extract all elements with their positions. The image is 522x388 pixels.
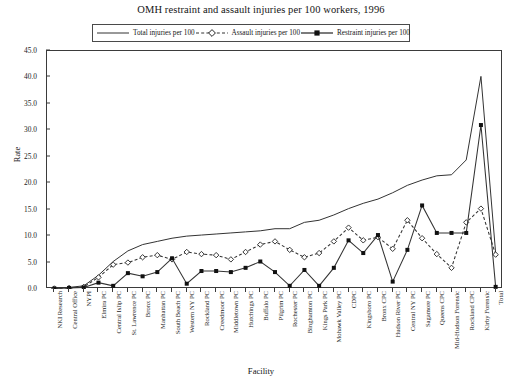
x-tick-mark [156, 288, 157, 292]
x-tick-label: Mid-Hudson Forensic [453, 291, 460, 349]
x-tick-mark [392, 288, 393, 292]
x-tick-label: Pilgrim PC [277, 291, 284, 321]
x-tick-mark [362, 288, 363, 292]
data-point-marker [332, 266, 336, 270]
x-tick-label: CDPC [350, 291, 357, 308]
x-tick-mark [289, 288, 290, 292]
x-tick-mark [127, 288, 128, 292]
data-point-marker [258, 242, 263, 247]
x-tick-mark [215, 288, 216, 292]
y-tick-label: 45.0 [24, 46, 37, 55]
x-tick-label: Kings Park PC [321, 291, 328, 330]
y-tick-mark [46, 102, 50, 103]
y-tick-label: 40.0 [24, 72, 37, 81]
x-tick-mark [245, 288, 246, 292]
x-tick-label: Queens CPC [438, 291, 445, 325]
x-tick-mark [200, 288, 201, 292]
x-tick-label: Hudson River PC [394, 291, 401, 338]
legend-item-assault: Assault injuries per 100 [195, 28, 300, 38]
y-tick-mark [46, 235, 50, 236]
y-tick-mark [46, 76, 50, 77]
x-tick-mark [318, 288, 319, 292]
x-tick-mark [377, 288, 378, 292]
x-tick-mark [421, 288, 422, 292]
x-tick-label: Bronx CPC [380, 291, 387, 322]
chart-legend: Total injuries per 100 Assault injuries … [92, 24, 410, 42]
x-tick-mark [97, 288, 98, 292]
data-point-marker [126, 271, 130, 275]
data-point-marker [199, 269, 203, 273]
x-tick-label: Rockland PC [203, 291, 210, 326]
y-tick-mark [46, 261, 50, 262]
x-tick-label: Central NY PC [409, 291, 416, 331]
data-point-marker [302, 268, 306, 272]
data-point-marker [391, 280, 395, 284]
x-tick-label: Binghamton PC [306, 291, 313, 333]
y-tick-mark [46, 182, 50, 183]
x-tick-mark [186, 288, 187, 292]
data-point-marker [420, 203, 424, 207]
series-line [54, 209, 495, 289]
y-axis-tick-labels: 0.05.010.015.020.025.030.035.040.045.0 [0, 50, 44, 288]
solid-line-swatch-icon [96, 28, 130, 38]
solid-square-swatch-icon [300, 28, 334, 38]
x-tick-label: Creedmoor PC [218, 291, 225, 330]
x-tick-label: NKI Research [56, 291, 63, 329]
data-point-marker [155, 270, 159, 274]
x-tick-label: Kingsboro PC [365, 291, 372, 329]
x-tick-mark [465, 288, 466, 292]
data-point-marker [419, 236, 424, 241]
y-tick-mark [46, 155, 50, 156]
y-tick-label: 0.0 [28, 284, 37, 293]
legend-item-total: Total injuries per 100 [96, 28, 195, 38]
data-point-marker [405, 248, 409, 252]
x-axis-title: Facility [0, 366, 522, 376]
data-point-marker [435, 231, 439, 235]
data-point-marker [96, 281, 100, 285]
x-tick-mark [406, 288, 407, 292]
x-tick-label: Rochester PC [291, 291, 298, 327]
data-point-marker [434, 251, 439, 256]
x-tick-mark [303, 288, 304, 292]
data-point-marker [243, 249, 248, 254]
y-tick-label: 35.0 [24, 98, 37, 107]
y-tick-mark [46, 129, 50, 130]
series-line [54, 76, 495, 288]
x-tick-label: South Beach PC [174, 291, 181, 334]
y-tick-label: 25.0 [24, 151, 37, 160]
y-tick-label: 5.0 [28, 257, 37, 266]
data-point-marker [493, 252, 498, 257]
data-point-marker [449, 265, 454, 270]
data-point-marker [214, 269, 218, 273]
plot-area [46, 50, 502, 288]
x-tick-mark [112, 288, 113, 292]
data-point-marker [213, 252, 218, 257]
y-tick-label: 10.0 [24, 231, 37, 240]
x-tick-label: Elmira PC [100, 291, 107, 319]
x-tick-label: Rockland CPC [468, 291, 475, 330]
x-tick-label: Buffalo PC [262, 291, 269, 321]
x-tick-mark [53, 288, 54, 292]
data-point-marker [228, 257, 233, 262]
data-point-marker [170, 256, 174, 260]
data-point-marker [185, 282, 189, 286]
x-tick-mark [83, 288, 84, 292]
dashed-diamond-swatch-icon [195, 28, 229, 38]
x-tick-label: NYPI [85, 291, 92, 306]
legend-label-assault: Assault injuries per 100 [232, 29, 300, 37]
data-point-marker [479, 123, 483, 127]
x-tick-mark [495, 288, 496, 292]
data-point-marker [302, 255, 307, 260]
data-point-marker [155, 252, 160, 257]
x-tick-mark [142, 288, 143, 292]
data-point-marker [140, 255, 145, 260]
x-tick-mark [480, 288, 481, 292]
data-point-marker [125, 260, 130, 265]
data-point-marker [464, 231, 468, 235]
x-tick-label: Western NY PC [188, 291, 195, 333]
data-point-marker [199, 251, 204, 256]
data-point-marker [331, 239, 336, 244]
y-tick-label: 30.0 [24, 125, 37, 134]
data-point-marker [376, 233, 380, 237]
data-point-marker [272, 239, 277, 244]
